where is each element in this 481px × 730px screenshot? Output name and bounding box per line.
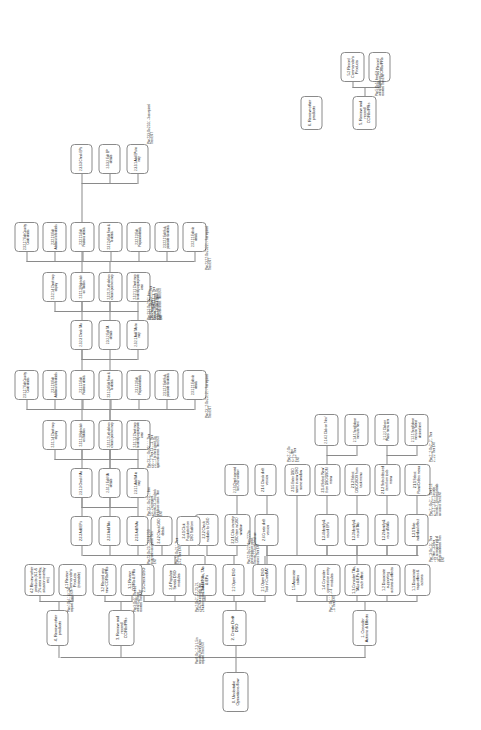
connector-line [364, 88, 365, 96]
task-node-n2-3-1-1-3[interactable]: 2.3.1.1.3 Right click on NA icon [70, 420, 94, 450]
task-node-n2-3-1-1-4[interactable]: 2.3.1.1.4 Check map display [42, 420, 66, 450]
task-node-n2-3-2-2-6[interactable]: 2.3.2.2.6 Edit Additional info details [42, 222, 66, 252]
task-node-n1-3[interactable]: 1.3 Consider TAs, TALs & EPs for each ef… [344, 564, 370, 596]
task-node-n1-3-3[interactable]: 1.3.3 Identify & record TAs [344, 514, 368, 546]
task-node-n1-3-1[interactable]: 1.3.1 Take individual effect [404, 514, 428, 546]
task-node-n2-3-1-2-5[interactable]: 2.3.1.2.5 Edit Positions details [70, 370, 94, 400]
task-node-label: 2.3.1.2.7 Edit Country Code details [23, 372, 29, 398]
connector-line [81, 546, 82, 556]
task-node-n2-3-2-1-3[interactable]: 2.3.2.1.3 Right click on TA icon [70, 272, 94, 302]
connector-line [81, 174, 82, 184]
task-node-n2-3-3-2[interactable]: 2.3.3.2 Edit EP details [98, 144, 120, 174]
plan-note-plan2-1-4: Plan 2.1.4: Do 2.1.4.1 then 2.1.4.2. The… [288, 416, 300, 462]
task-node-n1-3-2[interactable]: 1.3.2 Identify & record MAIs [374, 514, 398, 546]
task-node-n2-3-1-2-4[interactable]: 2.3.1.2.4 Edit From & To details [98, 370, 122, 400]
task-node-n5-2[interactable]: 5.2 Record Commander's Products [340, 52, 364, 82]
task-node-n2-3-2-2-5[interactable]: 2.3.2.2.5 Edit Positions details [70, 222, 94, 252]
task-node-n4-2[interactable]: 4.2 Review other products (4.1 & 1% area… [24, 564, 54, 596]
task-node-n2-3-1-2[interactable]: 2.3.1.2 Edit NA details [98, 468, 120, 498]
connector-line [54, 459, 138, 460]
task-node-n2-3-1-2-1[interactable]: 2.3.1.2.1 Edit nla details [182, 370, 206, 400]
task-node-n2[interactable]: 2. Create Draft DSO [222, 610, 246, 646]
task-node-n2-3-2-2-1[interactable]: 2.3.2.2.1 Edit nla details [182, 222, 206, 252]
task-node-n2-1-4[interactable]: 2.1.4 Select 'New' from DSO/DSOM menu [314, 464, 340, 496]
task-node-label: 2.2.2 Check modules for DSO [202, 516, 209, 544]
task-node-n2-3-1-2-6[interactable]: 2.3.1.2.6 Edit Additional info details [42, 370, 66, 400]
task-node-n6[interactable]: 6. Review other products [300, 96, 322, 130]
task-node-n2-1-5[interactable]: 2.1.5 Enter DSO name in new DSO name win… [284, 464, 310, 496]
task-node-n2-3-1-1[interactable]: 2.3.1.1 Add NA to map [126, 468, 148, 498]
task-node-n2-3-3[interactable]: 2.3.3 Add EPs [70, 516, 92, 546]
task-node-label: 2.3.1.2.5 Edit Positions details [79, 372, 85, 398]
task-node-label: 2.3.1.1.3 Right click on NA icon [79, 422, 85, 448]
task-node-n4[interactable]: 4. Review other products [46, 610, 68, 646]
task-node-n2-3-1-3[interactable]: 2.3.1.3 Check NAs [70, 468, 92, 498]
diagram-rotation-wrapper: 0. Undertake Operations flow1. Consider … [0, 0, 481, 730]
task-node-label: 2.3.1.3 Check NAs [79, 470, 82, 496]
task-node-label: 4. Review other products [53, 612, 62, 644]
task-node-n5[interactable]: 5. Review and record CC/RIs/PRs [352, 96, 376, 130]
connector-line [352, 82, 353, 88]
task-node-n2-3-1-2-3[interactable]: 2.3.1.2.3 Edit Proposed details [126, 370, 150, 400]
task-node-n2-2-1[interactable]: 2.2.1 Click on entry DSO item in DSO win… [224, 514, 250, 546]
connector-line [364, 646, 365, 658]
task-node-n2-3-1-1-1[interactable]: 2.3.1.1.1 Check map to identify appropri… [126, 420, 150, 450]
connector-line [54, 252, 55, 262]
task-node-n2-1-4-1[interactable]: 2.1.4.1 Scroll down menu to 'New' [344, 414, 368, 446]
connector-line [39, 596, 40, 602]
task-node-n2-3-2-2-2[interactable]: 2.3.2.2.2 Edit Sub-postcode nla details [154, 222, 178, 252]
task-node-n1-3-4[interactable]: 1.3.4 Identify & record EPs [314, 514, 338, 546]
task-node-n2-4[interactable]: 2.4 Populate Serials DSO modules [162, 564, 186, 596]
task-node-n2-1-3[interactable]: 2.1.3 Select DSO/DSOM from task menu [344, 464, 370, 496]
task-node-n2-3-1-2-7[interactable]: 2.3.1.2.7 Edit Country Code details [14, 370, 38, 400]
task-node-n3[interactable]: 3. Review and record CC/RIs/PRs [108, 610, 134, 646]
connector-line [161, 555, 188, 556]
task-node-n1-5[interactable]: 1.5 Associate cables [284, 564, 306, 596]
task-node-n2-1[interactable]: 2.1 Open DSO Tool in CoreBAT [252, 564, 276, 596]
task-node-n2-1-2-2[interactable]: 2.1.2.2 Click on 'Plans' menu item [374, 414, 398, 446]
task-node-n2-3-2-1-4[interactable]: 2.3.2.1.4 Check map display [42, 272, 66, 302]
plan-note-plan2-3-1-1: Plan 2.3.1.1: Do 2.3.1.1.1. Then 2.3.1.1… [148, 422, 160, 468]
task-node-n2-3-3-1[interactable]: 2.3.3.1 Add EPs to map [126, 144, 148, 174]
connector-line [54, 302, 55, 312]
connector-line [131, 596, 132, 602]
task-node-label: 1.3.4 Identify & record EPs [322, 516, 329, 544]
task-node-n2-2[interactable]: 2.2 Open DSO [222, 564, 244, 596]
task-node-label: 5. Review and record CC/RIs/PRs [358, 98, 371, 128]
connector-line [356, 601, 416, 602]
task-node-label: 2.3.2.2 Edit TA details [106, 322, 113, 348]
task-node-n2-2-3[interactable]: 2.2.3 Check opened for DSO window [224, 464, 248, 496]
task-node-n2-3-2-1[interactable]: 2.3.2.1 Add TAs to map [126, 320, 148, 350]
task-node-n2-3-2[interactable]: 2.3.2 Add TAs [98, 516, 120, 546]
task-node-label: 2.1.2 Select desired item from tools men… [381, 466, 392, 494]
task-node-n1-2[interactable]: 1.2 Dissociate supporting actions & effe… [374, 564, 400, 596]
task-node-n2-3-1-2-2[interactable]: 2.3.1.2.2 Edit Sub-postcode nla details [154, 370, 178, 400]
task-node-n2-3-2-2-7[interactable]: 2.3.2.2.7 Edit Country Code details [14, 222, 38, 252]
task-node-label: 1.3.1 Take individual effect [412, 516, 419, 544]
task-node-n2-3-1-1-2[interactable]: 2.3.1.1.2 Left click on chosen point on … [98, 420, 122, 450]
task-node-n2-3-2-1-2[interactable]: 2.3.2.1.2 Left click on chosen point on … [98, 272, 122, 302]
task-node-n2-1-6[interactable]: 2.1.6 Check draft version [254, 464, 276, 496]
task-node-n2-3-2-1-1[interactable]: 2.3.2.1.1 Check map to identify appropri… [126, 272, 150, 302]
task-node-n2-1-1[interactable]: 2.1.1 Select Plans/Orders menu [404, 464, 430, 496]
task-node-label: 2.4.2 Check DSO details [157, 518, 164, 544]
task-node-label: 2.6 Create draft version [262, 516, 269, 544]
task-node-n2-3-2-3[interactable]: 2.3.2.3 Check TAs [70, 320, 92, 350]
task-node-n1-1[interactable]: 1.1 Dissociate naps effect & actions [404, 564, 430, 596]
task-node-n1[interactable]: 1. Consider Actions & Effects [352, 610, 376, 646]
connector-line [137, 508, 138, 516]
task-node-root[interactable]: 0. Undertake Operations flow [222, 672, 248, 712]
task-node-label: 2.1.3 Select DSO/DSOM from task menu [351, 466, 362, 494]
task-node-label: 3. Review and record CC/RIs/PRs [115, 612, 128, 644]
task-node-n2-3-3-3[interactable]: 2.3.3.3 Check EPs [70, 144, 92, 174]
task-node-n2-3-2-2-4[interactable]: 2.3.2.2.4 Edit From & To details [98, 222, 122, 252]
connector-line [137, 450, 138, 460]
task-node-n3-2[interactable]: 3.2 Record any new CC/RIs/PRs [92, 564, 116, 596]
task-node-n2-1-2-1[interactable]: 2.1.2.1 Scroll down menu to 'Select desi… [404, 414, 428, 446]
task-node-label: 2.2 Open DSO [231, 566, 235, 594]
task-node-n2-3-2-2[interactable]: 2.3.2.2 Edit TA details [98, 320, 120, 350]
task-node-n2-3-1[interactable]: 2.3.1 Add NAs [126, 516, 148, 546]
task-node-n2-3-2-2-3[interactable]: 2.3.2.2.3 Edit Proposed details [126, 222, 150, 252]
task-node-n2-1-2[interactable]: 2.1.2 Select desired item from tools men… [374, 464, 400, 496]
task-node-n2-1-4-2[interactable]: 2.1.4.2 Click on 'New' [314, 414, 338, 446]
